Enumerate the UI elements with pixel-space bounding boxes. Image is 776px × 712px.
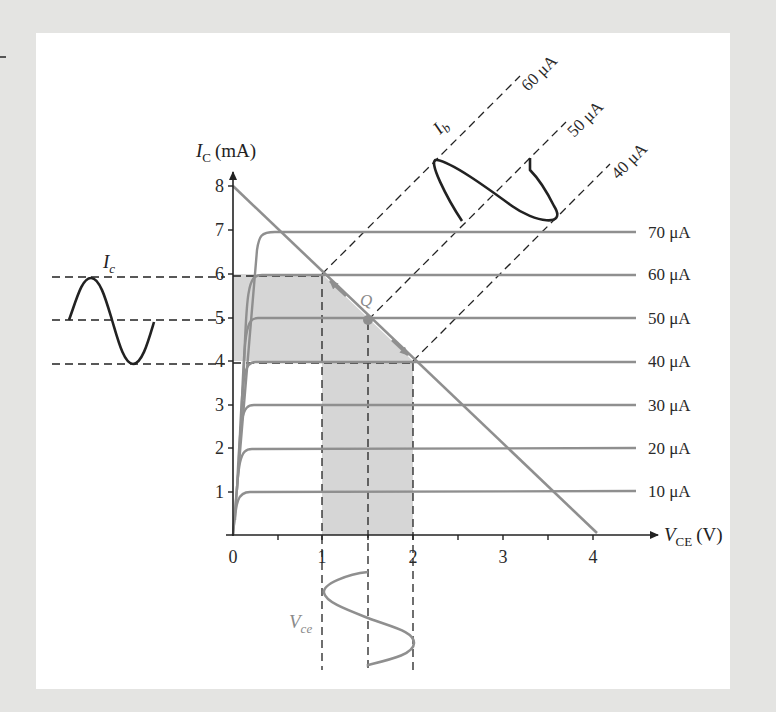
svg-text:10 μA: 10 μA xyxy=(648,482,691,501)
svg-text:1: 1 xyxy=(215,482,224,502)
svg-text:40 μA: 40 μA xyxy=(607,139,651,183)
svg-text:50 μA: 50 μA xyxy=(563,97,607,141)
ib-waveform xyxy=(434,158,557,221)
ib-line-labels: 60 μA 50 μA 40 μA xyxy=(517,51,651,183)
svg-text:4: 4 xyxy=(215,351,224,371)
x-axis-title: VCE(V) xyxy=(664,524,723,549)
curve-40ua xyxy=(239,362,636,460)
svg-text:50 μA: 50 μA xyxy=(648,309,691,328)
vce-waveform xyxy=(324,572,414,665)
x-axis-tick-labels: 0 1 2 3 4 xyxy=(229,547,598,567)
ic-waveform xyxy=(69,278,154,364)
q-point-label: Q xyxy=(360,291,372,310)
svg-text:8: 8 xyxy=(215,176,224,196)
svg-text:40 μA: 40 μA xyxy=(648,352,691,371)
svg-text:3: 3 xyxy=(215,395,224,415)
svg-text:7: 7 xyxy=(215,220,224,240)
svg-text:70 μA: 70 μA xyxy=(648,223,691,242)
svg-text:0: 0 xyxy=(229,547,238,567)
svg-text:3: 3 xyxy=(499,547,508,567)
svg-text:30 μA: 30 μA xyxy=(648,396,691,415)
svg-text:2: 2 xyxy=(215,438,224,458)
characteristics-figure: Q 1 2 3 4 5 6 7 8 0 1 2 3 xyxy=(0,0,776,712)
q-point-marker xyxy=(363,315,373,325)
svg-text:5: 5 xyxy=(215,308,224,328)
svg-text:20 μA: 20 μA xyxy=(648,439,691,458)
vce-signal-label: Vce xyxy=(289,611,312,636)
svg-text:60 μA: 60 μA xyxy=(517,51,561,95)
curve-labels: 10 μA 20 μA 30 μA 40 μA 50 μA 60 μA 70 μ… xyxy=(648,223,691,501)
y-axis-title: IC(mA) xyxy=(195,140,256,165)
svg-text:2: 2 xyxy=(409,547,418,567)
svg-text:60 μA: 60 μA xyxy=(648,265,691,284)
y-axis-tick-labels: 1 2 3 4 5 6 7 8 xyxy=(215,176,224,502)
svg-text:6: 6 xyxy=(215,264,224,284)
svg-text:1: 1 xyxy=(318,547,327,567)
ib-signal-label: Ib xyxy=(428,114,454,140)
ic-signal-label: Ic xyxy=(102,251,115,276)
curve-20ua xyxy=(235,448,636,520)
svg-text:4: 4 xyxy=(589,547,598,567)
